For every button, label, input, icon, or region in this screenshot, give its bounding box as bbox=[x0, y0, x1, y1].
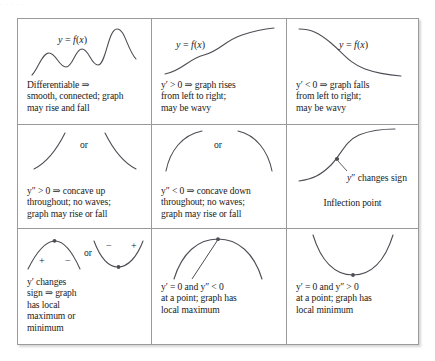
wavy-rising-curve-figure bbox=[18, 19, 151, 81]
caption-line: maximum or bbox=[27, 310, 145, 321]
caption-line: graph may rise or fall bbox=[161, 208, 280, 219]
calculus-reference-table: y = f(x) Differentiable ⇒ smooth, connec… bbox=[17, 18, 419, 345]
caption-line: may be wavy bbox=[296, 102, 412, 113]
local-min-dot bbox=[117, 265, 121, 269]
caption-line: y′ = 0 and y″ > 0 bbox=[296, 281, 412, 292]
caption-line: y′ > 0 ⇒ graph rises bbox=[161, 79, 280, 90]
inflection-point-dot bbox=[335, 157, 339, 161]
caption-line: smooth, connected; graph bbox=[27, 90, 145, 101]
caption-r2c3: Inflection point bbox=[287, 197, 418, 208]
table-cell-r3c2: y′ = 0 and y″ < 0 at a point; graph has … bbox=[152, 229, 287, 344]
sign-plus-arch-left: + bbox=[39, 255, 45, 266]
table-cell-r3c3: y′ = 0 and y″ > 0 at a point; graph has … bbox=[287, 229, 418, 344]
caption-line: y″ > 0 ⇒ concave up bbox=[27, 185, 145, 196]
caption-line: at a point; graph has bbox=[161, 292, 280, 303]
caption-line: throughout; no waves; bbox=[27, 196, 145, 207]
caption-line: may rise and fall bbox=[27, 102, 145, 113]
caption-line: local maximum bbox=[161, 304, 280, 315]
caption-r2c2: y″ < 0 ⇒ concave down throughout; no wav… bbox=[161, 185, 280, 219]
curve-label-r1c1: y = f(x) bbox=[58, 34, 87, 45]
caption-line: y′ < 0 ⇒ graph falls bbox=[296, 79, 412, 90]
upward-parabola-figure bbox=[287, 229, 418, 285]
or-label-r2c2: or bbox=[214, 139, 222, 150]
concave-down-pair-figure bbox=[152, 125, 286, 185]
table-cell-r2c1: or y″ > 0 ⇒ concave up throughout; no wa… bbox=[18, 125, 152, 229]
table-cell-r2c2: or y″ < 0 ⇒ concave down throughout; no … bbox=[152, 125, 287, 229]
caption-line: sign ⇒ graph bbox=[27, 287, 145, 298]
caption-line: y″ < 0 ⇒ concave down bbox=[161, 185, 280, 196]
inflection-annotation-r2c3: y″ changes sign bbox=[347, 172, 407, 183]
cut-off-header-sliver: · · · · · bbox=[0, 0, 435, 9]
table-cell-r1c2: y = f(x) y′ > 0 ⇒ graph rises from left … bbox=[152, 19, 287, 125]
table-cell-r1c3: y = f(x) y′ < 0 ⇒ graph falls from left … bbox=[287, 19, 418, 125]
caption-line: from left to right; bbox=[161, 90, 280, 101]
caption-line: y′ = 0 and y″ < 0 bbox=[161, 281, 280, 292]
caption-line: y′ changes bbox=[27, 276, 145, 287]
caption-r3c3: y′ = 0 and y″ > 0 at a point; graph has … bbox=[296, 281, 412, 315]
sign-plus-valley-right: + bbox=[131, 240, 137, 251]
caption-line: throughout; no waves; bbox=[161, 196, 280, 207]
caption-line: Inflection point bbox=[287, 197, 418, 208]
or-label-r2c1: or bbox=[80, 139, 88, 150]
caption-r3c2: y′ = 0 and y″ < 0 at a point; graph has … bbox=[161, 281, 280, 315]
caption-r3c1: y′ changes sign ⇒ graph has local maximu… bbox=[27, 276, 145, 333]
caption-line: Differentiable ⇒ bbox=[27, 79, 145, 90]
sign-minus-arch-right: − bbox=[65, 255, 71, 266]
local-min-vertex-dot bbox=[351, 273, 355, 277]
concave-up-pair-figure bbox=[18, 125, 151, 185]
curve-label-r1c3: y = f(x) bbox=[339, 39, 368, 50]
local-max-dot bbox=[53, 239, 57, 243]
caption-line: minimum bbox=[27, 322, 145, 333]
table-cell-r3c1: + − or − + y′ changes sign ⇒ graph has l… bbox=[18, 229, 152, 344]
caption-r1c3: y′ < 0 ⇒ graph falls from left to right;… bbox=[296, 79, 412, 113]
caption-r1c2: y′ > 0 ⇒ graph rises from left to right;… bbox=[161, 79, 280, 113]
table-grid: y = f(x) Differentiable ⇒ smooth, connec… bbox=[18, 19, 418, 344]
caption-line: at a point; graph has bbox=[296, 292, 412, 303]
caption-line: local minimum bbox=[296, 304, 412, 315]
curve-label-r1c2: y = f(x) bbox=[176, 39, 205, 50]
caption-r1c1: Differentiable ⇒ smooth, connected; grap… bbox=[27, 79, 145, 113]
table-cell-r2c3: y″ changes sign Inflection point bbox=[287, 125, 418, 229]
increasing-s-curve-figure bbox=[152, 19, 286, 81]
caption-line: may be wavy bbox=[161, 102, 280, 113]
sign-minus-valley-left: − bbox=[106, 240, 112, 251]
caption-line: has local bbox=[27, 299, 145, 310]
decreasing-s-curve-figure bbox=[287, 19, 418, 81]
downward-parabola-figure bbox=[152, 229, 286, 285]
local-max-vertex-dot bbox=[216, 237, 220, 241]
caption-r2c1: y″ > 0 ⇒ concave up throughout; no waves… bbox=[27, 185, 145, 219]
or-label-r3c1: or bbox=[84, 247, 92, 258]
caption-line: from left to right; bbox=[296, 90, 412, 101]
table-cell-r1c1: y = f(x) Differentiable ⇒ smooth, connec… bbox=[18, 19, 152, 125]
caption-line: graph may rise or fall bbox=[27, 208, 145, 219]
